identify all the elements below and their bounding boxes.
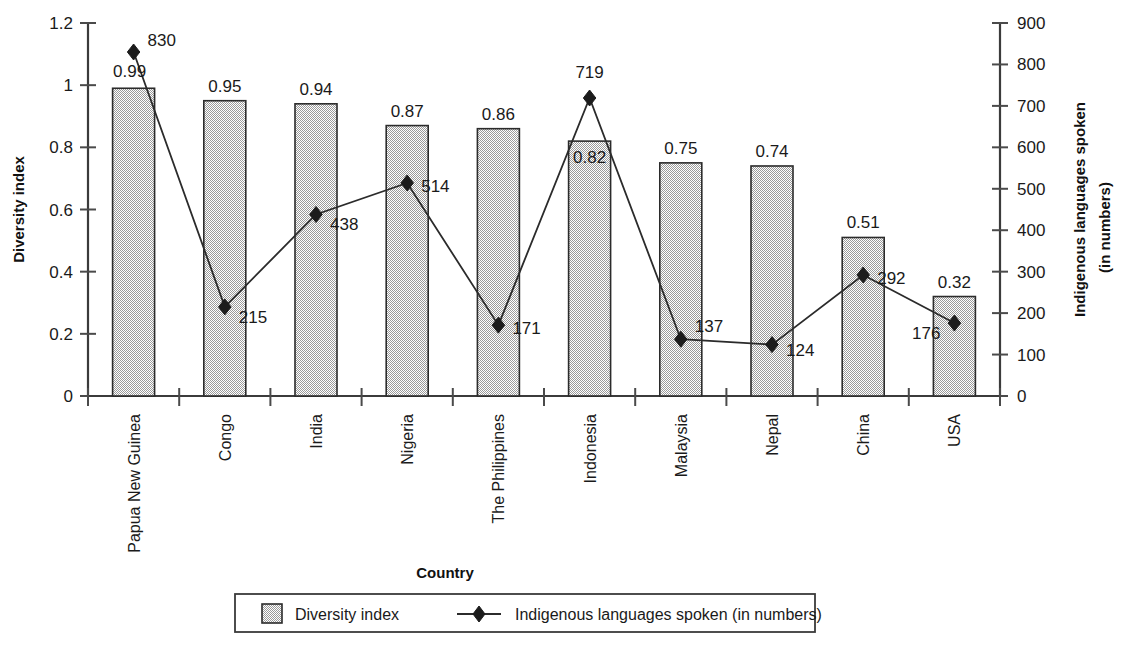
bar-value-label: 0.32	[938, 273, 971, 292]
bar	[477, 129, 519, 396]
y-axis-title: Diversity index	[10, 155, 27, 262]
category-label: Indonesia	[582, 414, 599, 483]
right-axis-tick-label: 400	[1017, 221, 1045, 240]
left-axis-tick-label: 0.8	[49, 138, 73, 157]
left-axis-tick-label: 1	[64, 76, 73, 95]
right-axis-tick-label: 0	[1017, 387, 1026, 406]
line-value-label: 171	[512, 319, 540, 338]
line-series	[127, 44, 960, 353]
category-label: USA	[946, 414, 963, 447]
left-axis-tick-label: 0.2	[49, 325, 73, 344]
bar-value-label: 0.87	[391, 102, 424, 121]
category-label: Malaysia	[673, 414, 690, 477]
category-label: Papua New Guinea	[126, 414, 143, 553]
bar	[751, 166, 793, 396]
chart-legend: Diversity indexIndigenous languages spok…	[235, 594, 822, 632]
y2-axis-title-line1: Indigenous languages spoken	[1071, 102, 1088, 317]
bar	[933, 297, 975, 396]
line-value-label: 124	[786, 341, 814, 360]
legend-marker-indigenous-languages	[473, 606, 485, 622]
right-axis-tick-label: 900	[1017, 14, 1045, 33]
line-value-label: 514	[421, 177, 449, 196]
left-axis-tick-label: 0	[64, 387, 73, 406]
legend-label-indigenous-languages: Indigenous languages spoken (in numbers)	[515, 606, 822, 623]
left-axis-tick-label: 1.2	[49, 14, 73, 33]
right-axis-tick-label: 800	[1017, 55, 1045, 74]
x-axis-title: Country	[416, 564, 474, 581]
combo-chart: 00.20.40.60.811.2 0100200300400500600700…	[0, 0, 1130, 649]
legend-label-diversity-index: Diversity index	[295, 606, 399, 623]
bar	[204, 101, 246, 396]
series-polyline	[134, 52, 955, 345]
left-axis: 00.20.40.60.811.2	[49, 14, 96, 406]
bar	[295, 104, 337, 396]
bar-series	[113, 88, 976, 396]
right-axis-tick-label: 100	[1017, 346, 1045, 365]
line-value-label: 137	[695, 317, 723, 336]
bar-value-label: 0.51	[847, 213, 880, 232]
bar-value-label: 0.95	[208, 77, 241, 96]
bar-value-label: 0.82	[573, 148, 606, 167]
bar	[113, 88, 155, 396]
bar	[569, 141, 611, 396]
line-value-label: 830	[148, 31, 176, 50]
bar-value-label: 0.74	[755, 142, 788, 161]
right-axis-tick-label: 700	[1017, 97, 1045, 116]
left-axis-tick-label: 0.4	[49, 263, 73, 282]
right-axis: 0100200300400500600700800900	[992, 14, 1045, 406]
category-label: Nigeria	[399, 414, 416, 465]
line-value-label: 215	[239, 308, 267, 327]
category-label: Congo	[217, 414, 234, 461]
line-value-label: 176	[912, 324, 940, 343]
right-axis-tick-label: 200	[1017, 304, 1045, 323]
line-value-label: 292	[877, 269, 905, 288]
bar	[386, 126, 428, 396]
bar-value-label: 0.99	[113, 62, 146, 81]
y2-axis-title-line2: (in numbers)	[1096, 182, 1113, 273]
right-axis-tick-label: 600	[1017, 138, 1045, 157]
right-axis-tick-label: 500	[1017, 180, 1045, 199]
line-value-labels: 830215438514171719137124292176	[148, 31, 941, 360]
data-point-marker	[583, 90, 595, 106]
bar	[660, 163, 702, 396]
bar-value-label: 0.86	[482, 105, 515, 124]
chart-container: 00.20.40.60.811.2 0100200300400500600700…	[0, 0, 1130, 649]
category-label: Nepal	[764, 414, 781, 456]
category-label: India	[308, 414, 325, 449]
category-labels: Papua New GuineaCongoIndiaNigeriaThe Phi…	[126, 414, 964, 553]
line-value-label: 719	[575, 63, 603, 82]
category-label: The Philippines	[490, 414, 507, 523]
legend-swatch-diversity-index	[262, 604, 282, 623]
left-axis-tick-label: 0.6	[49, 201, 73, 220]
bar	[842, 237, 884, 396]
bar-value-label: 0.75	[664, 139, 697, 158]
bar-value-label: 0.94	[299, 80, 332, 99]
data-point-marker	[127, 44, 139, 60]
line-value-label: 438	[330, 215, 358, 234]
category-label: China	[855, 414, 872, 456]
right-axis-tick-label: 300	[1017, 263, 1045, 282]
